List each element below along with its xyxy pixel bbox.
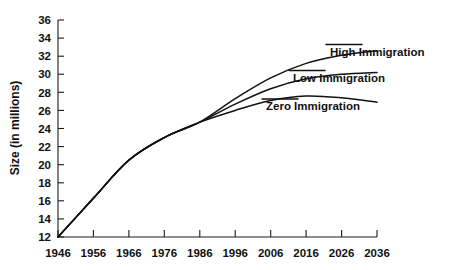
x-tick-label: 2006 [258,247,284,259]
y-axis-title: Size (in millions) [8,81,22,176]
y-tick-label: 12 [38,231,51,243]
chart-canvas: 36 34 32 30 28 26 24 22 20 18 16 14 12 S… [0,0,451,270]
y-tick-label: 34 [38,32,51,44]
y-tick-label: 26 [38,105,51,117]
y-tick-label: 36 [38,14,51,26]
y-tick-label: 16 [38,195,51,207]
x-tick-label: 2036 [364,247,390,259]
y-tick-label: 32 [38,50,51,62]
x-tick-label: 1966 [116,247,142,259]
population-projection-chart: 36 34 32 30 28 26 24 22 20 18 16 14 12 S… [0,0,451,270]
y-tick-label: 20 [38,159,51,171]
x-tick-label: 2016 [293,247,319,259]
x-tick-label: 1956 [81,247,107,259]
series-label-zero-immigration: Zero Immigration [266,100,360,112]
y-tick-label: 24 [38,123,51,135]
series-label-low-immigration: Low Immigration [293,72,385,84]
y-tick-label: 22 [38,141,51,153]
y-tick-label: 18 [38,177,51,189]
x-tick-label: 1996 [222,247,248,259]
y-tick-label: 14 [38,213,51,225]
x-tick-label: 1986 [187,247,213,259]
x-tick-label: 1976 [152,247,178,259]
y-tick-label: 30 [38,68,51,80]
x-tick-label: 1946 [45,247,71,259]
x-tick-label: 2026 [329,247,355,259]
y-tick-label: 28 [38,87,51,99]
chart-background [0,0,451,270]
series-label-high-immigration: High Immigration [330,46,425,58]
